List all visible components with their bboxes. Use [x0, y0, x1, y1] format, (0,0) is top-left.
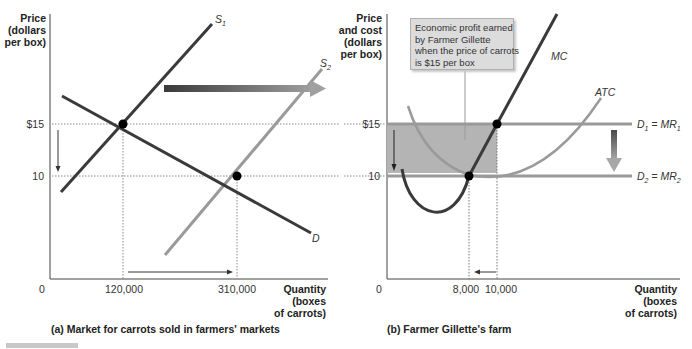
panel-a: Price (dollars per box) $15 10 0 120,000… [5, 12, 340, 335]
a-label-s1: S1 [215, 13, 226, 27]
decorative-bar [6, 343, 78, 348]
b-point-mc-mr1 [493, 120, 502, 129]
b-caption: (b) Farmer Gillette's farm [387, 323, 511, 335]
b-quantity-fall-arrowhead [474, 270, 480, 275]
economic-profit-callout: Economic profit earned by Farmer Gillett… [410, 18, 514, 70]
b-label-mc: MC [551, 50, 568, 62]
a-label-s2: S2 [320, 57, 331, 71]
b-x-axis-label-2: (boxes [643, 295, 677, 307]
a-price-fall-arrowhead [56, 166, 61, 172]
callout-line-1: Economic profit earned [415, 22, 509, 34]
b-label-d1-mr1: D1 = MR1 [637, 118, 681, 132]
a-x-tick-310000: 310,000 [218, 283, 256, 295]
b-y-tick-10: 10 [368, 170, 380, 182]
a-equilibrium-new [233, 172, 242, 181]
a-caption: (a) Market for carrots sold in farmers' … [51, 323, 280, 335]
a-quantity-rise-arrowhead [227, 270, 233, 275]
b-x-tick-8000: 8,000 [453, 283, 479, 295]
b-y-axis-label-1: Price [356, 12, 382, 24]
b-y-axis-label-3: (dollars [344, 36, 382, 48]
b-label-d2-mr2: D2 = MR2 [637, 170, 681, 184]
callout-line-3: when the price of carrots [415, 45, 509, 57]
b-demand-shift-arrowhead [606, 158, 622, 172]
b-y-axis-label-4: per box) [341, 48, 382, 60]
callout-line-4: is $15 per box [415, 57, 509, 69]
a-supply-shift-arrowhead [310, 80, 326, 97]
b-demand-shift-arrow [611, 130, 617, 160]
b-y-axis-label-2: and cost [339, 24, 383, 36]
b-x-axis-label-1: Quantity [634, 283, 677, 295]
a-demand-curve [62, 96, 311, 233]
a-x-tick-120000: 120,000 [105, 283, 143, 295]
b-y-tick-15: $15 [362, 118, 380, 130]
a-x-tick-0: 0 [39, 283, 45, 295]
a-supply-shift-arrow [164, 85, 314, 92]
b-label-atc: ATC [594, 86, 616, 98]
a-y-axis-label-3: per box) [5, 36, 46, 48]
figure-canvas: Price (dollars per box) $15 10 0 120,000… [0, 0, 692, 349]
a-equilibrium-initial [119, 120, 128, 129]
b-x-axis-label-3: of carrots) [625, 307, 677, 319]
a-x-axis-label-3: of carrots) [274, 307, 326, 319]
b-point-mc-mr2 [465, 172, 474, 181]
a-label-d: D [312, 232, 320, 244]
a-y-axis-label-2: (dollars [8, 24, 46, 36]
a-y-tick-10: 10 [32, 170, 44, 182]
a-x-axis-label-1: Quantity [283, 283, 326, 295]
callout-line-2: by Farmer Gillette [415, 34, 509, 46]
a-y-tick-15: $15 [26, 118, 44, 130]
a-x-axis-label-2: (boxes [292, 295, 326, 307]
a-y-axis-label-1: Price [20, 12, 46, 24]
b-x-tick-10000: 10,000 [485, 283, 517, 295]
b-economic-profit-area [387, 124, 497, 173]
b-x-tick-0: 0 [376, 283, 382, 295]
